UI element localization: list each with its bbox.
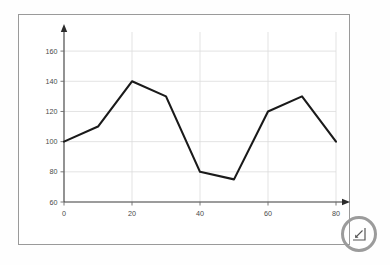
y-axis-arrow — [61, 24, 67, 32]
chart-canvas[interactable]: 6080100120140160020406080 — [18, 14, 350, 245]
y-tick-label: 60 — [50, 198, 58, 207]
y-tick-label: 80 — [50, 167, 58, 176]
resize-handle-icon — [352, 227, 366, 241]
x-axis-arrow — [342, 199, 350, 205]
x-tick-label: 20 — [128, 209, 136, 218]
tick-layer — [61, 51, 337, 205]
line-chart[interactable]: 6080100120140160020406080 — [18, 14, 350, 245]
screenshot-root: 6080100120140160020406080 — [0, 0, 390, 265]
y-tick-label: 100 — [46, 137, 58, 146]
x-tick-label: 80 — [332, 209, 340, 218]
x-tick-label: 60 — [264, 209, 272, 218]
x-tick-label: 0 — [62, 209, 66, 218]
y-tick-label: 140 — [46, 77, 58, 86]
y-tick-label: 160 — [46, 47, 58, 56]
tick-label-layer: 6080100120140160020406080 — [46, 47, 341, 218]
x-tick-label: 40 — [196, 209, 204, 218]
y-tick-label: 120 — [46, 107, 58, 116]
